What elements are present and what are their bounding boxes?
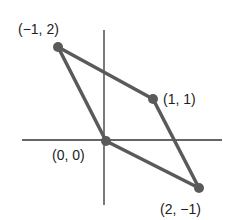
label-vertex-b: (1, 1) <box>163 91 196 107</box>
vertex-origin <box>101 136 111 146</box>
parallelogram <box>58 47 199 188</box>
vertex-a <box>53 42 63 52</box>
label-vertex-c: (2, −1) <box>160 201 201 217</box>
vertex-c <box>194 183 204 193</box>
vertex-b <box>148 94 158 104</box>
diagram-svg: (−1, 2) (1, 1) (2, −1) (0, 0) <box>0 0 232 220</box>
parallelogram-diagram: (−1, 2) (1, 1) (2, −1) (0, 0) <box>0 0 232 220</box>
label-vertex-a: (−1, 2) <box>18 21 59 37</box>
label-origin: (0, 0) <box>52 147 85 163</box>
